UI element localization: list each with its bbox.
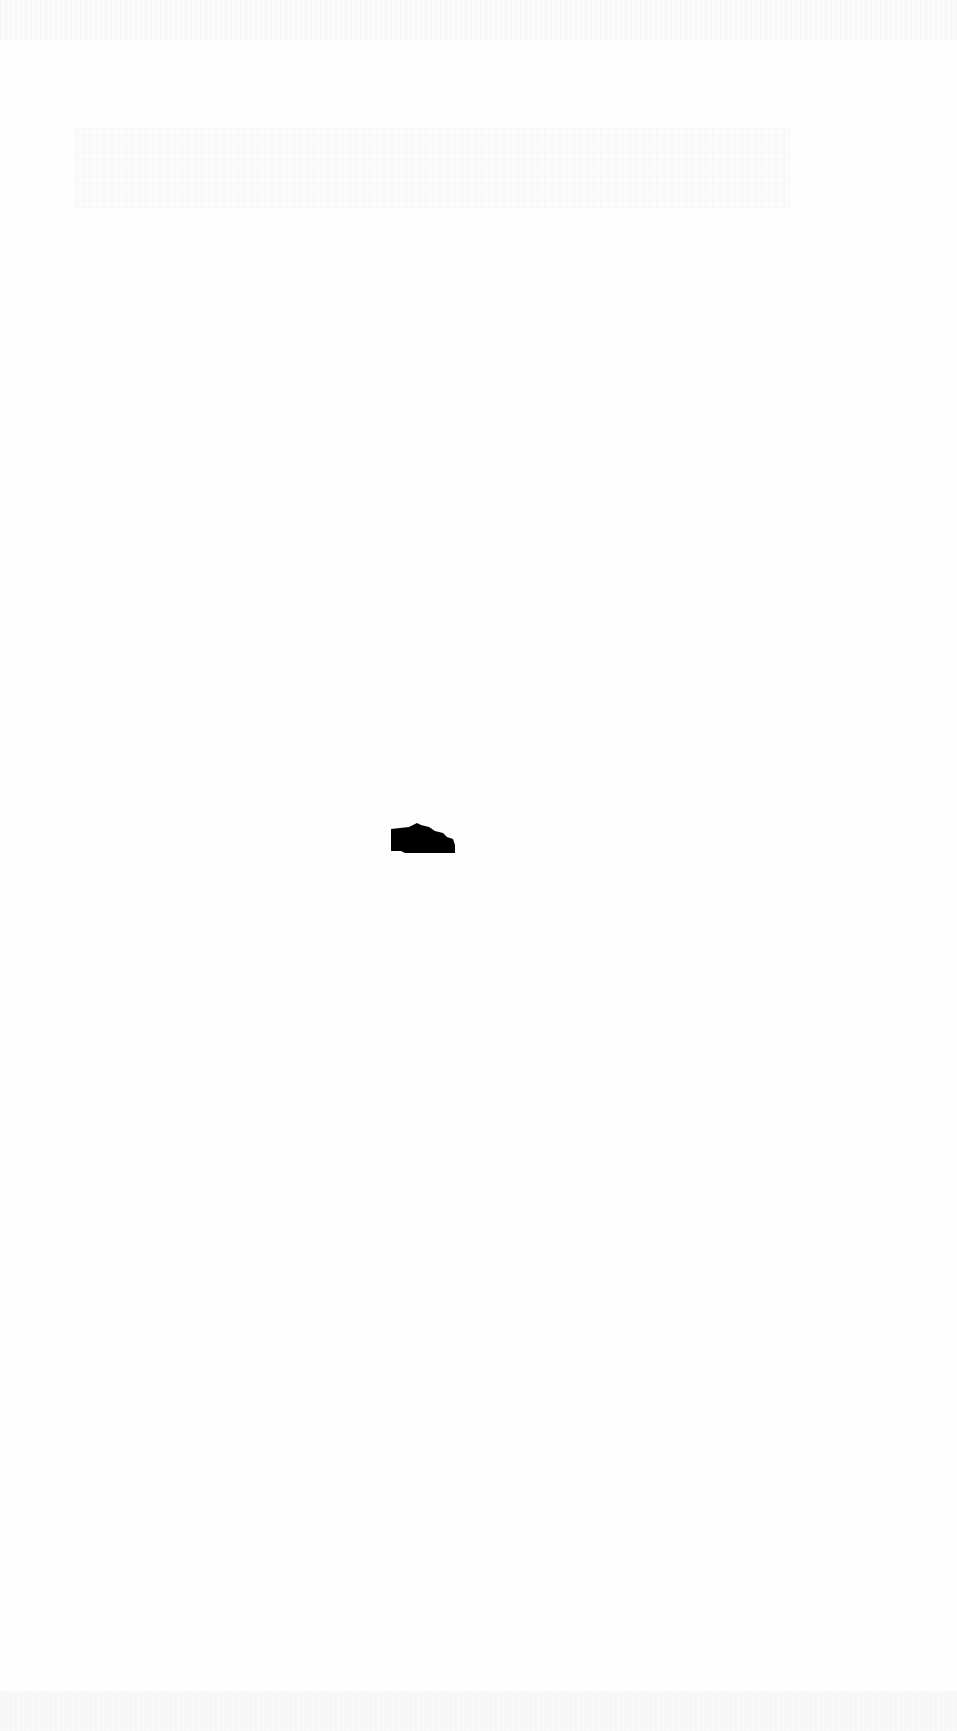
top-scan-noise xyxy=(0,0,957,40)
blank-document-page xyxy=(0,0,957,1731)
bottom-scan-noise xyxy=(0,1691,957,1731)
black-blot-icon xyxy=(391,823,455,853)
faded-heading-area xyxy=(75,128,790,208)
blot-shape-icon xyxy=(391,823,455,853)
